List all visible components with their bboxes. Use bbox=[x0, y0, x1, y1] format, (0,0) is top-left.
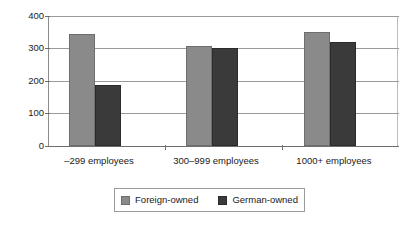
y-tick-0 bbox=[45, 146, 50, 147]
legend-label-german-owned: German-owned bbox=[232, 195, 297, 205]
legend-item-german-owned: German-owned bbox=[218, 195, 297, 205]
bar-foreign-owned-299-employees bbox=[69, 34, 95, 146]
x-axis-label-category-1: –299 employees bbox=[36, 155, 162, 166]
legend: Foreign-owned German-owned bbox=[114, 188, 305, 212]
y-axis-label-300: 300 bbox=[4, 43, 44, 53]
bar-foreign-owned-300-999-employees bbox=[186, 46, 212, 146]
bars-layer bbox=[48, 16, 398, 146]
y-axis-label-100: 100 bbox=[4, 108, 44, 118]
bar-foreign-owned-1000-plus-employees bbox=[304, 32, 330, 146]
x-axis-label-category-2: 300–999 employees bbox=[152, 155, 280, 166]
y-axis-label-0: 0 bbox=[4, 141, 44, 151]
y-axis-label-200: 200 bbox=[4, 76, 44, 86]
legend-label-foreign-owned: Foreign-owned bbox=[135, 195, 198, 205]
legend-swatch-icon-german-owned bbox=[218, 196, 227, 205]
gridline-0-baseline bbox=[49, 146, 399, 147]
legend-item-foreign-owned: Foreign-owned bbox=[121, 195, 198, 205]
bar-german-owned-1000-plus-employees bbox=[330, 42, 356, 146]
y-axis-label-400: 400 bbox=[4, 11, 44, 21]
bar-chart: 400 300 200 100 0 –299 employees 300–999… bbox=[0, 0, 419, 229]
legend-swatch-icon-foreign-owned bbox=[121, 196, 130, 205]
x-axis-label-category-3: 1000+ employees bbox=[272, 155, 396, 166]
bar-german-owned-299-employees bbox=[95, 85, 121, 146]
bar-german-owned-300-999-employees bbox=[212, 48, 238, 146]
